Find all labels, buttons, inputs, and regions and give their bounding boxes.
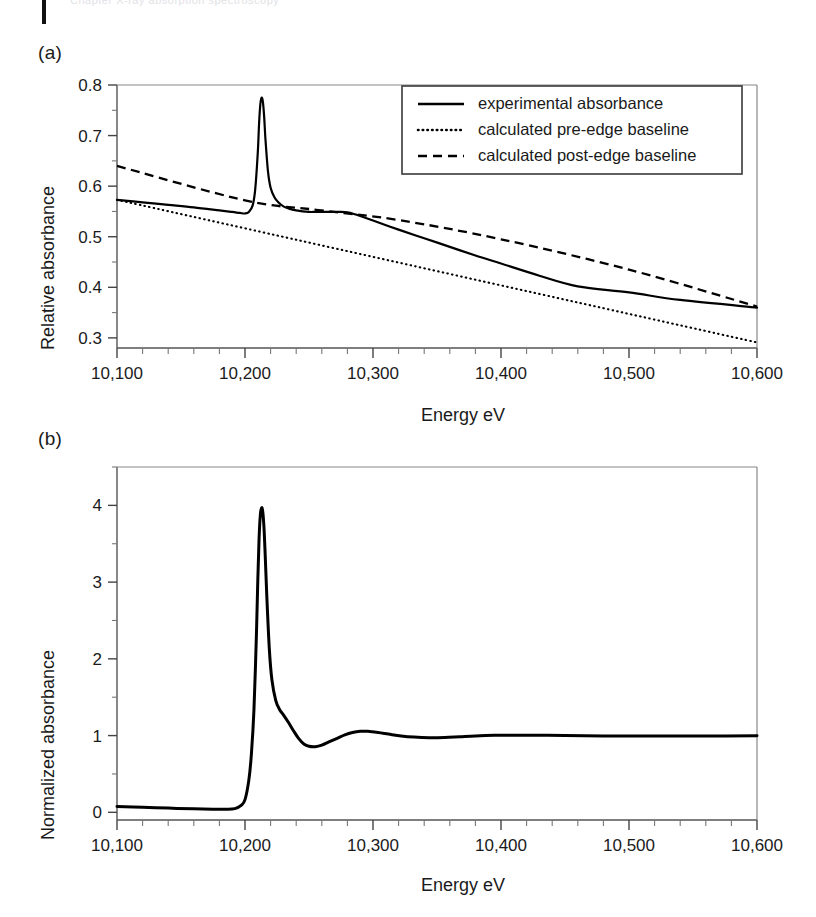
y-tick-label: 0.5 [78,228,102,247]
legend-label: calculated pre-edge baseline [478,120,689,138]
y-tick-label: 2 [93,650,102,669]
x-tick-label: 10,400 [475,836,527,855]
page-header-rule [42,0,46,24]
data-line-solid [117,508,757,810]
x-tick-label: 10,100 [91,836,143,855]
legend: experimental absorbancecalculated pre-ed… [402,86,742,174]
panel-a-plot: 0.30.40.50.60.70.810,10010,20010,30010,4… [0,30,816,440]
x-tick-label: 10,200 [219,836,271,855]
axis-frame: 0123410,10010,20010,30010,40010,50010,60… [91,467,783,855]
x-tick-label: 10,400 [475,364,527,383]
x-tick-label: 10,300 [347,364,399,383]
x-tick-label: 10,500 [603,364,655,383]
x-tick-label: 10,200 [219,364,271,383]
page-header-text: Chapter X-ray absorption spectroscopy [70,0,770,8]
figure-panel-b: (b) Normalized absorbance Energy eV 0123… [0,420,816,917]
y-tick-label: 0 [93,803,102,822]
panel-b-plot: 0123410,10010,20010,30010,40010,50010,60… [0,420,816,917]
y-tick-label: 0.4 [78,278,102,297]
x-tick-label: 10,600 [731,836,783,855]
y-tick-label: 0.7 [78,127,102,146]
y-tick-label: 1 [93,727,102,746]
x-tick-label: 10,100 [91,364,143,383]
legend-label: calculated post-edge baseline [478,146,696,164]
y-tick-label: 0.8 [78,76,102,95]
y-tick-label: 0.6 [78,177,102,196]
x-tick-label: 10,500 [603,836,655,855]
data-series-group [117,508,757,810]
data-line-dashed [117,166,757,307]
x-tick-label: 10,600 [731,364,783,383]
data-line-dotted [117,200,757,343]
legend-label: experimental absorbance [478,94,663,112]
y-tick-label: 3 [93,573,102,592]
y-tick-label: 0.3 [78,329,102,348]
figure-panel-a: (a) Relative absorbance Energy eV 0.30.4… [0,30,816,440]
x-tick-label: 10,300 [347,836,399,855]
y-tick-label: 4 [93,496,102,515]
